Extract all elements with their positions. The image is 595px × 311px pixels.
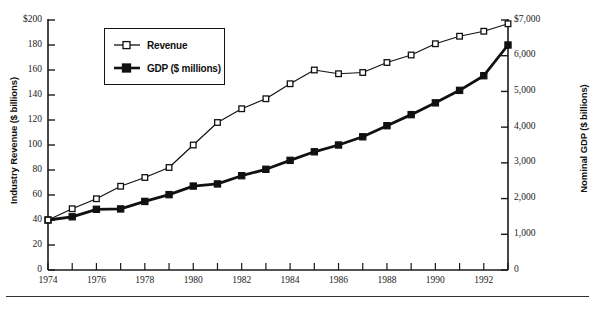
legend-item-gdp: GDP ($ millions) [113,59,221,77]
legend-label-gdp: GDP ($ millions) [147,63,221,74]
bottom-divider-rule [6,296,589,297]
filled-square-marker-icon [113,63,141,73]
chart-figure: Industry Revenue ($ billions) Nominal GD… [0,0,595,311]
chart-legend: Revenue GDP ($ millions) [104,28,225,85]
legend-label-revenue: Revenue [147,40,187,51]
legend-item-revenue: Revenue [113,36,187,54]
plot-area [0,0,595,311]
open-square-marker-icon [113,40,141,50]
